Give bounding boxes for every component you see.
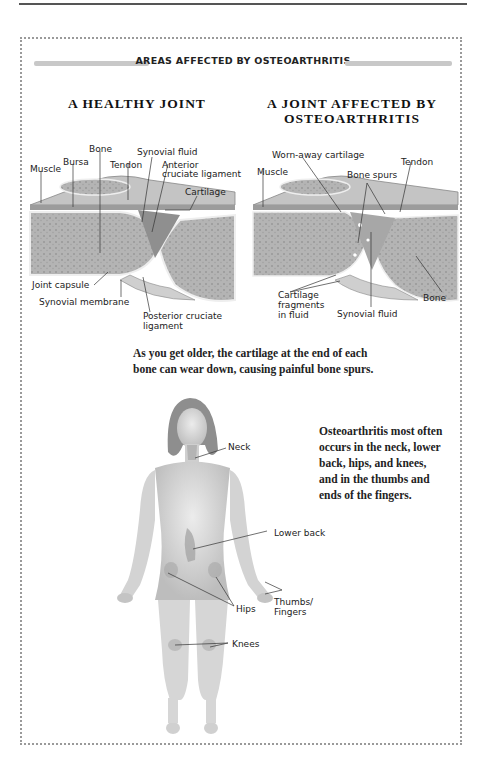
label-neck: Neck [228, 442, 250, 452]
label-thumbs-fingers-2: Fingers [274, 607, 306, 617]
body-caption-line4: and in the thumbs and [319, 471, 430, 487]
body-caption-line2: occurs in the neck, lower [319, 439, 441, 455]
label-thumbs-fingers-1: Thumbs/ [274, 597, 313, 607]
label-knees: Knees [232, 639, 259, 649]
body-caption-line1: Osteoarthritis most often [319, 423, 442, 439]
body-caption-line5: ends of the fingers. [319, 487, 412, 503]
body-figure-illustration [0, 0, 489, 775]
body-caption-line3: back, hips, and knees, [319, 455, 426, 471]
label-lower-back: Lower back [274, 528, 325, 538]
label-hips: Hips [236, 604, 256, 614]
